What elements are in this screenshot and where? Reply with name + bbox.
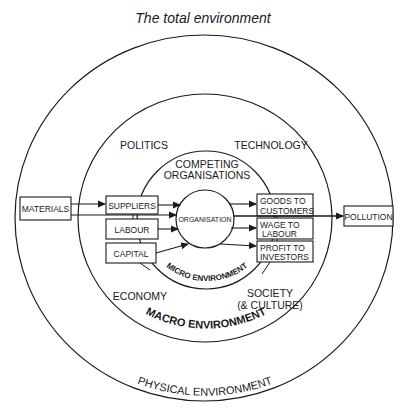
- total-environment-diagram: The total environment PHYSICAL ENVIRONME…: [0, 0, 406, 418]
- labour-label: LABOUR: [115, 225, 150, 235]
- capital-tick: [140, 263, 150, 270]
- profit-tick: [262, 262, 270, 274]
- profit-to-label: PROFIT TO: [260, 243, 305, 253]
- wage-to-label: WAGE TO: [260, 220, 300, 230]
- labour-output-label: LABOUR: [262, 229, 297, 239]
- capital-to-organisation-arrow: [156, 244, 188, 253]
- politics-label: POLITICS: [120, 139, 168, 151]
- materials-label: MATERIALS: [22, 204, 70, 214]
- society-label: SOCIETY: [247, 287, 293, 299]
- culture-label: (& CULTURE): [237, 299, 303, 311]
- diagram-title: The total environment: [135, 10, 272, 26]
- economy-label: ECONOMY: [113, 290, 167, 302]
- micro-environment-label: MICRO ENVIRONMENT: [165, 261, 249, 283]
- capital-label: CAPITAL: [114, 249, 149, 259]
- technology-label: TECHNOLOGY: [234, 139, 308, 151]
- pollution-label: POLLUTION: [344, 212, 392, 222]
- investors-label: INVESTORS: [260, 252, 309, 262]
- goods-to-label: GOODS TO: [260, 196, 306, 206]
- organisations-label: ORGANISATIONS: [164, 169, 251, 181]
- suppliers-label: SUPPLIERS: [108, 201, 156, 211]
- customers-label: CUSTOMERS: [260, 206, 314, 216]
- organisation-label: ORGANISATION: [178, 216, 231, 223]
- organisation-to-profit-arrow: [220, 244, 256, 246]
